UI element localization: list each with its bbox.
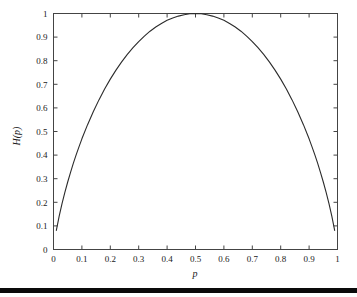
- x-tick-label: 0.3: [133, 254, 145, 264]
- y-tick-label: 0: [43, 245, 48, 255]
- x-tick-label: 0.4: [161, 254, 173, 264]
- x-tick-label: 1: [335, 254, 340, 264]
- y-tick-label: 0.7: [36, 80, 48, 90]
- x-tick-label: 0.5: [190, 254, 202, 264]
- x-tick-label: 0.1: [76, 254, 87, 264]
- y-axis-title: H(p): [11, 126, 23, 147]
- x-tick-label: 0.9: [303, 254, 315, 264]
- y-tick-label: 0.5: [36, 127, 48, 137]
- x-tick-label: 0.2: [105, 254, 116, 264]
- page-bottom-rule: [0, 288, 357, 293]
- x-tick-label: 0.6: [218, 254, 230, 264]
- x-axis-title: p: [192, 268, 198, 279]
- y-tick-label: 1: [43, 9, 48, 19]
- y-tick-label: 0.8: [36, 56, 48, 66]
- y-tick-label: 0.1: [36, 221, 47, 231]
- y-tick-label: 0.9: [36, 32, 48, 42]
- y-tick-label: 0.2: [36, 198, 47, 208]
- y-tick-label: 0.4: [36, 150, 48, 160]
- entropy-chart-figure: 00.10.20.30.40.50.60.70.80.91 00.10.20.3…: [0, 0, 357, 297]
- y-tick-label: 0.6: [36, 103, 48, 113]
- y-tick-label: 0.3: [36, 174, 48, 184]
- x-tick-label: 0.8: [275, 254, 287, 264]
- x-tick-label: 0: [51, 254, 56, 264]
- x-tick-label: 0.7: [247, 254, 259, 264]
